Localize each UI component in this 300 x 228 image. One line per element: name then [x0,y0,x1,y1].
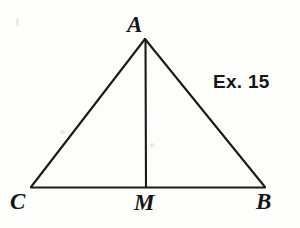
exercise-caption: Ex. 15 [213,72,270,91]
segment-side-AC [31,39,145,187]
paper-speck [60,130,65,134]
vertex-label-C: C [10,190,25,213]
vertex-label-A: A [127,13,142,36]
vertex-label-M: M [134,191,154,214]
vertex-label-B: B [256,190,271,213]
segment-side-AB [145,39,265,187]
geometry-figure: A C B M Ex. 15 [0,0,300,228]
paper-speck [150,143,154,147]
paper-speck [16,18,19,26]
segment-median-AM [146,40,147,187]
